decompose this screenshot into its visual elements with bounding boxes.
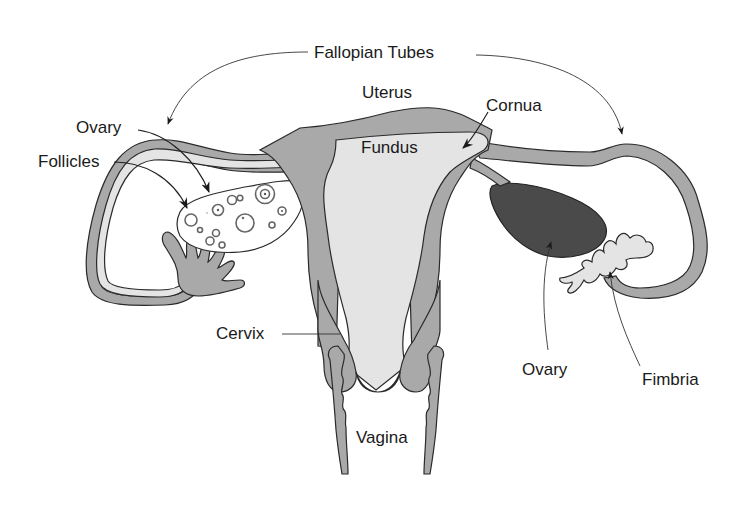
fallopian-tubes-leader-right [476,55,622,134]
label-ovary-left: Ovary [76,118,122,137]
label-uterus: Uterus [362,83,412,102]
label-fallopian-tubes: Fallopian Tubes [314,43,434,62]
fallopian-tubes-leader-left [168,52,308,124]
reproductive-anatomy-diagram: Fallopian Tubes Uterus Cornua Fundus Ova… [0,0,752,507]
ovary-right-leader [544,242,551,350]
right-ovarian-ligament [470,158,510,186]
label-ovary-right: Ovary [522,360,568,379]
label-vagina: Vagina [356,428,408,447]
label-cornua: Cornua [486,96,542,115]
label-fundus: Fundus [361,138,418,157]
label-cervix: Cervix [216,324,265,343]
right-ovary [490,183,606,257]
label-follicles: Follicles [38,152,99,171]
label-fimbria: Fimbria [642,370,699,389]
